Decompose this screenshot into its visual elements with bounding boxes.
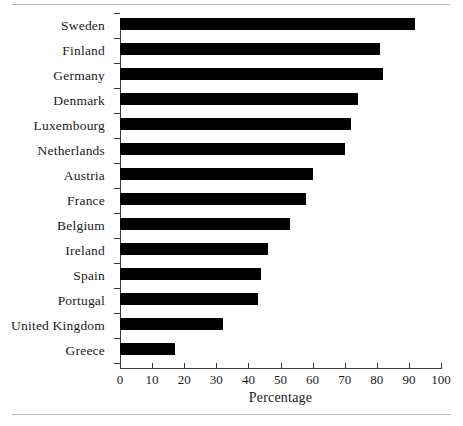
bottom-rule: [12, 414, 450, 415]
bar: [120, 268, 261, 280]
x-axis-tick-label: 0: [117, 372, 124, 388]
category-label: United Kingdom: [11, 313, 105, 338]
category-label: Luxembourg: [34, 113, 106, 138]
category-label: Denmark: [53, 88, 105, 113]
x-axis-tick-label: 70: [338, 372, 351, 388]
x-axis-tick-label: 30: [210, 372, 223, 388]
x-axis-tick-label: 20: [178, 372, 191, 388]
bar: [120, 218, 290, 230]
x-axis-tick-label: 50: [274, 372, 287, 388]
bar: [120, 168, 313, 180]
category-label: Portugal: [58, 288, 105, 313]
bar: [120, 193, 306, 205]
category-label: Finland: [62, 38, 105, 63]
bar: [120, 118, 351, 130]
bar: [120, 68, 383, 80]
category-label: Austria: [64, 163, 105, 188]
category-label: Belgium: [57, 213, 105, 238]
bar: [120, 293, 258, 305]
x-axis-tick-label: 100: [431, 372, 451, 388]
x-axis-tick-label: 10: [146, 372, 159, 388]
x-axis-title: Percentage: [120, 390, 441, 406]
bar: [120, 93, 358, 105]
bar: [120, 243, 268, 255]
x-axis-tick-label: 90: [402, 372, 415, 388]
bar: [120, 43, 380, 55]
top-rule: [12, 4, 450, 5]
bar: [120, 143, 345, 155]
category-label: Netherlands: [38, 138, 105, 163]
x-axis-tick: [441, 363, 442, 369]
category-label: Spain: [73, 263, 105, 288]
category-label: Sweden: [61, 13, 105, 38]
category-label: Ireland: [65, 238, 105, 263]
x-axis-tick-label: 60: [306, 372, 319, 388]
bar: [120, 318, 223, 330]
category-label: France: [67, 188, 105, 213]
bar-series: [120, 12, 441, 368]
category-label: Germany: [53, 63, 105, 88]
category-axis-labels: SwedenFinlandGermanyDenmarkLuxembourgNet…: [0, 12, 113, 368]
bar: [120, 18, 415, 30]
bar: [120, 343, 175, 355]
x-axis-tick-label: 80: [370, 372, 383, 388]
plot-area: SwedenFinlandGermanyDenmarkLuxembourgNet…: [0, 12, 463, 412]
category-label: Greece: [66, 338, 105, 363]
x-axis-tick-label: 40: [242, 372, 255, 388]
figure: SwedenFinlandGermanyDenmarkLuxembourgNet…: [0, 0, 463, 426]
